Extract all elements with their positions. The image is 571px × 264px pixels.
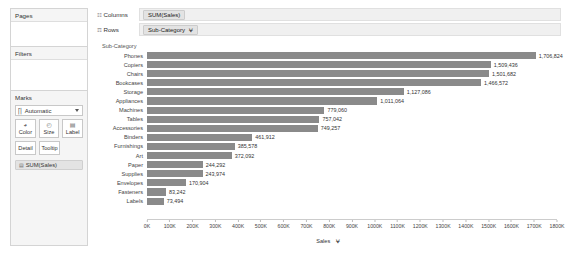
bar-mark[interactable] (147, 188, 166, 195)
bar-mark[interactable] (147, 198, 164, 205)
filters-card: Filters (11, 47, 87, 91)
x-axis-tick: 300K (209, 220, 221, 229)
filters-shelf-dropzone[interactable] (11, 59, 87, 90)
bar-row[interactable]: Art372,092 (95, 151, 557, 160)
bar-track: 244,292 (147, 160, 557, 169)
bar-track: 385,578 (147, 142, 557, 151)
bar-value-label: 372,092 (232, 153, 255, 159)
bar-value-label: 244,292 (203, 162, 226, 168)
bar-track: 83,242 (147, 187, 557, 196)
bar-row[interactable]: Copiers1,509,436 (95, 60, 557, 69)
bar-mark[interactable] (147, 97, 377, 104)
bar-row[interactable]: Machines779,060 (95, 106, 557, 115)
bar-value-label: 1,127,086 (404, 89, 431, 95)
size-button[interactable]: ◴ Size (39, 119, 60, 138)
bar-row[interactable]: Storage1,127,086 (95, 87, 557, 96)
bar-track: 1,501,682 (147, 69, 557, 78)
bar-track: 757,042 (147, 115, 557, 124)
x-axis-tick: 1200K (413, 220, 428, 229)
bar-row-label: Furnishings (95, 143, 147, 149)
bar-mark[interactable] (147, 125, 318, 132)
bar-row[interactable]: Appliances1,011,064 (95, 96, 557, 105)
x-axis-tick-mark (329, 220, 330, 222)
bar-row[interactable]: Accessories749,257 (95, 124, 557, 133)
bar-row[interactable]: Binders461,912 (95, 133, 557, 142)
label-button[interactable]: ▤ Label (62, 119, 83, 138)
marks-pill-label: SUM(Sales) (26, 162, 57, 168)
bar-row[interactable]: Labels73,494 (95, 197, 557, 206)
x-axis-tick-label: 1100K (390, 223, 405, 229)
columns-pill-sum-sales[interactable]: SUM(Sales) (143, 10, 185, 20)
marks-side-panel: Pages Filters Marks ⎡⎢ Automatic ◕ Color… (10, 8, 88, 246)
bar-mark[interactable] (147, 61, 491, 68)
bar-mark[interactable] (147, 143, 235, 150)
marks-pill-sum-sales[interactable]: ▤ SUM(Sales) (15, 160, 83, 170)
bar-row-label: Tables (95, 116, 147, 122)
x-axis-tick-mark (306, 220, 307, 222)
bar-mark[interactable] (147, 152, 232, 159)
bar-row[interactable]: Bookcases1,466,572 (95, 78, 557, 87)
bar-mark[interactable] (147, 134, 252, 141)
bar-mark[interactable] (147, 170, 203, 177)
bar-row[interactable]: Phones1,706,824 (95, 51, 557, 60)
rows-shelf-dropzone[interactable]: Sub-Category ⩝ (139, 23, 561, 36)
bar-mark[interactable] (147, 161, 203, 168)
bar-row[interactable]: Furnishings385,578 (95, 142, 557, 151)
mark-type-dropdown[interactable]: ⎡⎢ Automatic (15, 105, 83, 116)
bar-row[interactable]: Supplies243,974 (95, 169, 557, 178)
tooltip-button[interactable]: Tooltip (39, 141, 60, 155)
rows-pill-sub-category[interactable]: Sub-Category ⩝ (143, 25, 198, 35)
bar-row[interactable]: Chairs1,501,682 (95, 69, 557, 78)
x-axis-tick-mark (443, 220, 444, 222)
rows-shelf-label-group: ☶ Rows (95, 26, 139, 33)
bar-row[interactable]: Fasteners83,242 (95, 187, 557, 196)
columns-shelf: ☷ Columns SUM(Sales) (95, 8, 561, 21)
x-axis-tick: 1600K (504, 220, 519, 229)
bar-mark[interactable] (147, 79, 481, 86)
axis-sort-icon[interactable]: ⩝ (336, 237, 340, 244)
mark-type-label: Automatic (25, 108, 75, 114)
bar-mark[interactable] (147, 107, 324, 114)
color-button-label: Color (19, 129, 32, 136)
bar-mark[interactable] (147, 88, 404, 95)
top-strip (0, 0, 571, 6)
bar-mark[interactable] (147, 52, 536, 59)
detail-button[interactable]: Detail (15, 141, 36, 155)
pages-card-title: Pages (11, 9, 87, 21)
bar-mark[interactable] (147, 70, 489, 77)
bar-value-label: 73,494 (164, 198, 184, 204)
x-axis-tick-mark (465, 220, 466, 222)
label-button-label: Label (66, 129, 80, 136)
x-axis-tick-mark (420, 220, 421, 222)
tableau-worksheet: Pages Filters Marks ⎡⎢ Automatic ◕ Color… (0, 0, 571, 264)
chevron-down-icon (75, 109, 79, 112)
x-axis-tick-label: 900K (346, 223, 358, 229)
bar-row-label: Machines (95, 107, 147, 113)
sort-descending-icon[interactable]: ⩝ (189, 26, 193, 34)
x-axis-tick-mark (534, 220, 535, 222)
bar-value-label: 779,060 (324, 107, 347, 113)
bar-value-label: 170,904 (186, 180, 209, 186)
pages-shelf-dropzone[interactable] (11, 21, 87, 46)
bar-value-label: 757,042 (319, 116, 342, 122)
bar-row[interactable]: Envelopes170,904 (95, 178, 557, 187)
x-axis-tick-label: 1400K (458, 223, 473, 229)
bar-chart-icon: ⎡⎢ (18, 108, 23, 114)
bar-mark[interactable] (147, 179, 186, 186)
bar-mark[interactable] (147, 116, 319, 123)
bar-value-label: 83,242 (166, 189, 186, 195)
color-button[interactable]: ◕ Color (15, 119, 36, 138)
bar-row[interactable]: Tables757,042 (95, 115, 557, 124)
detail-button-label: Detail (18, 145, 32, 151)
bar-track: 1,466,572 (147, 78, 557, 87)
columns-shelf-dropzone[interactable]: SUM(Sales) (139, 8, 561, 21)
bar-track: 749,257 (147, 124, 557, 133)
bar-row-label: Supplies (95, 171, 147, 177)
x-axis-tick-label: 1300K (436, 223, 451, 229)
x-axis-tick: 900K (346, 220, 358, 229)
bar-row[interactable]: Paper244,292 (95, 160, 557, 169)
color-icon: ◕ (24, 122, 28, 129)
x-axis-tick-mark (556, 220, 557, 222)
x-axis-title: Sales (316, 238, 330, 244)
x-axis-tick-label: 1700K (527, 223, 542, 229)
